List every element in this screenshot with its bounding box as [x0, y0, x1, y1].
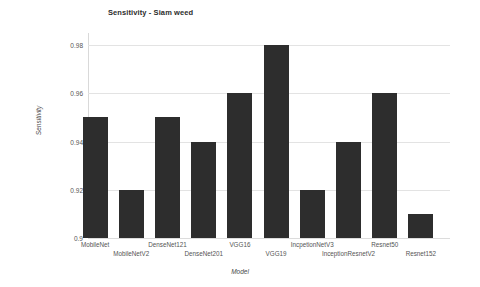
bar: [372, 93, 397, 238]
y-axis-tick-label: 0.92: [70, 186, 83, 193]
bar: [408, 214, 433, 238]
x-axis-tick-label: VGG19: [266, 250, 287, 257]
x-axis-tick-label: InceptionResnetV2: [322, 250, 375, 257]
bar: [155, 117, 180, 238]
x-axis-tick-label: MobileNetV2: [113, 250, 149, 257]
x-axis-tick-label: IncpetionNetV3: [291, 241, 334, 248]
bar: [83, 117, 108, 238]
x-axis-tick-label: DenseNet121: [148, 241, 187, 248]
bar: [264, 45, 289, 238]
bar: [191, 142, 216, 238]
x-axis-title: Model: [0, 268, 480, 275]
y-axis-tick-label: 0.96: [70, 90, 83, 97]
bar: [300, 190, 325, 238]
x-axis-tick-labels: MobileNetMobileNetV2DenseNet121DenseNet2…: [88, 238, 450, 264]
chart-title: Sensitivity - Siam weed: [108, 8, 193, 17]
plot-area: 0.90.920.940.960.98: [88, 33, 450, 238]
y-axis-tick-label: 0.98: [70, 42, 83, 49]
x-axis-tick-label: VGG16: [229, 241, 250, 248]
bars-layer: [88, 33, 450, 238]
y-axis-tick-label: 0.94: [70, 138, 83, 145]
x-axis-tick-label: MobileNet: [81, 241, 109, 248]
bar: [119, 190, 144, 238]
x-axis-tick-label: DenseNet201: [184, 250, 223, 257]
x-axis-tick-label: Resnet50: [371, 241, 398, 248]
x-axis-tick-label: Resnet152: [406, 250, 436, 257]
bar: [227, 93, 252, 238]
sensitivity-bar-chart: Sensitivity - Siam weed 0.90.920.940.960…: [0, 0, 480, 287]
y-axis-title: Sensitivity: [35, 106, 42, 135]
bar: [336, 142, 361, 238]
